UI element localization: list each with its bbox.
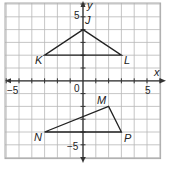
vertex-label-p: P [124,132,132,144]
tick-label-y-neg5: −5 [67,141,79,152]
vertex-label-m: M [97,94,107,106]
coordinate-plane: x y −5 0 5 5 −5 J K L M N P [0,0,173,171]
vertex-label-j: J [84,14,91,26]
tick-label-x-neg5: −5 [7,85,19,96]
vertex-label-n: N [34,131,42,143]
x-axis-label: x [153,66,160,78]
vertex-label-l: L [124,54,130,66]
y-axis-label: y [86,0,94,11]
vertex-label-k: K [35,54,43,66]
tick-label-x-5: 5 [145,85,151,96]
x-axis-arrow-right-icon [160,78,166,83]
tick-label-y-5: 5 [74,10,80,21]
tick-label-origin: 0 [74,83,80,94]
